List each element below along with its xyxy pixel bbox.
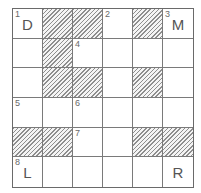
crossword-cell[interactable] — [133, 98, 163, 128]
blocked-cell — [133, 68, 163, 98]
crossword-cell[interactable]: 7 — [73, 128, 103, 158]
crossword-cell[interactable]: 2 — [103, 9, 133, 39]
crossword-cell[interactable] — [163, 68, 193, 98]
blocked-cell — [43, 68, 73, 98]
crossword-cell[interactable]: 3M — [163, 9, 193, 39]
crossword-cell[interactable] — [13, 68, 43, 98]
crossword-cell[interactable] — [103, 39, 133, 69]
clue-number: 4 — [75, 39, 80, 49]
blocked-cell — [43, 39, 73, 69]
crossword-cell[interactable] — [43, 98, 73, 128]
crossword-cell[interactable] — [163, 39, 193, 69]
cell-letter: L — [13, 164, 42, 182]
crossword-cell[interactable]: 5 — [13, 98, 43, 128]
cell-letter: M — [163, 16, 193, 34]
crossword-cell[interactable] — [103, 157, 133, 187]
blocked-cell — [43, 128, 73, 158]
crossword-cell[interactable]: 8L — [13, 157, 43, 187]
crossword-grid: 1D23M45678LR — [12, 8, 194, 188]
crossword-cell[interactable] — [43, 157, 73, 187]
blocked-cell — [133, 9, 163, 39]
clue-number: 7 — [75, 128, 80, 138]
clue-number: 5 — [15, 98, 20, 108]
clue-number: 2 — [105, 9, 110, 19]
cell-letter: D — [13, 16, 42, 34]
crossword-cell[interactable] — [103, 98, 133, 128]
blocked-cell — [43, 9, 73, 39]
crossword-cell[interactable] — [163, 98, 193, 128]
crossword-cell[interactable]: 4 — [73, 39, 103, 69]
cell-letter: R — [163, 164, 193, 182]
clue-number: 6 — [75, 98, 80, 108]
crossword-cell[interactable] — [103, 68, 133, 98]
crossword-cell[interactable] — [103, 128, 133, 158]
blocked-cell — [133, 128, 163, 158]
crossword-cell[interactable] — [133, 39, 163, 69]
crossword-cell[interactable] — [133, 157, 163, 187]
blocked-cell — [73, 9, 103, 39]
blocked-cell — [13, 128, 43, 158]
blocked-cell — [73, 68, 103, 98]
crossword-cell[interactable] — [73, 157, 103, 187]
crossword-cell[interactable] — [13, 39, 43, 69]
crossword-cell[interactable]: R — [163, 157, 193, 187]
blocked-cell — [163, 128, 193, 158]
crossword-cell[interactable]: 1D — [13, 9, 43, 39]
crossword-cell[interactable]: 6 — [73, 98, 103, 128]
